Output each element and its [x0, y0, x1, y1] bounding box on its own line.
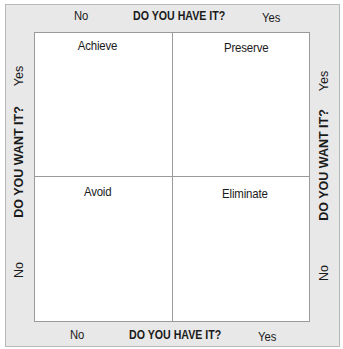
quadrant-achieve: Achieve [78, 38, 117, 53]
left-axis-no-label: No [12, 262, 26, 278]
bottom-axis-title: DO YOU HAVE IT? [129, 328, 221, 342]
top-axis-no-label: No [74, 9, 88, 23]
top-axis-title: DO YOU HAVE IT? [133, 9, 225, 23]
quadrant-preserve: Preserve [224, 40, 268, 55]
bottom-axis-yes-label: Yes [258, 330, 276, 344]
left-axis-title: DO YOU WANT IT? [12, 106, 26, 218]
quadrant-avoid: Avoid [84, 184, 112, 199]
top-axis-yes-label: Yes [262, 11, 280, 25]
quadrant-grid: Achieve Preserve Avoid Eliminate [34, 32, 310, 322]
right-axis-no-label: No [317, 265, 331, 281]
vertical-divider [172, 33, 173, 321]
horizontal-divider [35, 176, 309, 177]
right-axis-title: DO YOU WANT IT? [317, 109, 331, 221]
right-axis-yes-label: Yes [317, 71, 331, 91]
left-axis-yes-label: Yes [12, 66, 26, 86]
quadrant-eliminate: Eliminate [222, 186, 267, 201]
bottom-axis-no-label: No [70, 328, 84, 342]
